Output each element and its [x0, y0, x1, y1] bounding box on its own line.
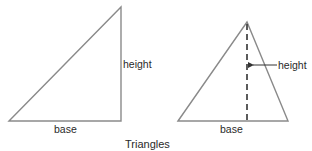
right-triangle-shape — [9, 7, 121, 121]
acute-triangle-base-label: base — [220, 123, 243, 135]
triangles-diagram: height base height base Triangles — [0, 0, 312, 151]
diagram-title: Triangles — [125, 138, 170, 150]
acute-triangle: height base — [178, 22, 307, 135]
right-triangle-base-label: base — [54, 123, 77, 135]
right-triangle-height-label: height — [123, 58, 152, 70]
acute-triangle-height-label: height — [278, 59, 307, 71]
right-triangle: height base — [9, 7, 152, 135]
acute-triangle-shape — [178, 22, 288, 121]
